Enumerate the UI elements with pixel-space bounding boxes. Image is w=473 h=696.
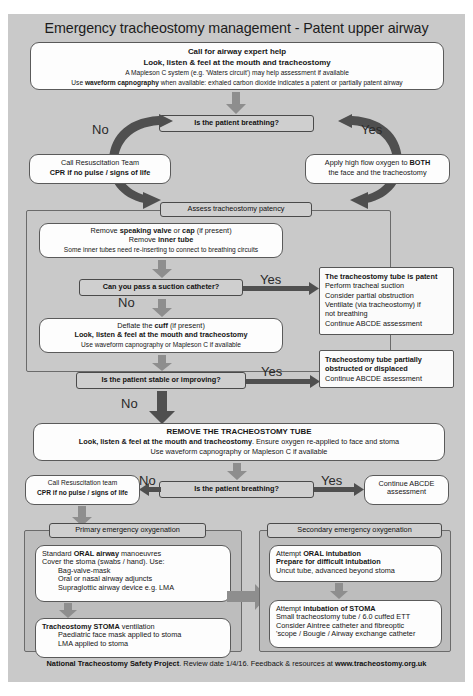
arrow-no-to-deflate — [152, 299, 172, 317]
resus1-line1: Call Resuscitation Team — [33, 159, 167, 167]
flowchart-canvas: Emergency tracheostomy management - Pate… — [8, 14, 465, 682]
footer-url[interactable]: www.tracheostomy.org.uk — [335, 659, 427, 668]
remove-valve-line3: Some inner tubes need re-inserting to co… — [44, 246, 278, 254]
decision-suction-catheter[interactable]: Can you pass a suction catheter? — [79, 279, 243, 296]
primary-header-label: Primary emergency oxygenation — [75, 526, 180, 534]
footer-regular: . Review date 1/4/16. Feedback & resourc… — [179, 659, 335, 668]
flowchart-page: Emergency tracheostomy management - Pate… — [0, 0, 473, 696]
secondary-header-label: Secondary emergency oxygenation — [297, 526, 411, 534]
remove-valve-line2: Remove inner tube — [44, 236, 278, 244]
secondary-oral-intubation-box: Attempt ORAL intubation Prepare for diff… — [269, 545, 442, 582]
arrow-no-to-remove-tube — [149, 391, 175, 424]
footer-bold1: National Tracheostomy Safety Project — [47, 659, 180, 668]
patent-line5: not breathing — [325, 309, 448, 318]
secondary-stoma-intubation-box: Attempt intubation of STOMA Small trache… — [269, 600, 442, 648]
apply-oxygen-box: Apply high flow oxygen to BOTH the face … — [305, 154, 450, 184]
arrow-down-secondary-inner — [330, 583, 348, 599]
primary-b2-line3: LMA applied to stoma — [42, 640, 224, 648]
arrow-down-to-decision4 — [227, 463, 247, 480]
branch-label-yes-2: Yes — [260, 272, 281, 287]
tube-partially-obstructed-box: Tracheostomy tube partially obstructed o… — [319, 350, 454, 388]
page-title: Emergency tracheostomy management - Pate… — [8, 20, 465, 36]
oxygen-line2: the face and the tracheostomy — [309, 169, 446, 177]
partial-line2: obstructed or displaced — [325, 364, 448, 373]
resus1-line2: CPR if no pulse / signs of life — [33, 169, 167, 177]
branch-label-yes-4: Yes — [321, 473, 342, 488]
assess-header-label: Assess tracheostomy patency — [188, 205, 285, 213]
arrow-yes-to-partial — [246, 375, 320, 389]
continue-line2: assessment — [368, 488, 445, 496]
decision4-label: Is the patient breathing? — [194, 485, 279, 493]
deflate-line1: Deflate the cuff (if present) — [44, 322, 278, 330]
decision-is-patient-breathing-2[interactable]: Is the patient breathing? — [159, 481, 314, 498]
patent-line6: Continue ABCDE assessment — [325, 319, 448, 328]
branch-label-no-3: No — [121, 396, 138, 411]
primary-stoma-ventilation-box: Tracheostomy STOMA ventilation Paediatri… — [35, 618, 231, 658]
arrow-down-to-decision3 — [152, 355, 172, 371]
patent-line3: Consider partial obstruction — [325, 291, 448, 300]
decision1-label: Is the patient breathing? — [194, 119, 279, 127]
continue-abcde-box: Continue ABCDE assessment — [364, 475, 449, 505]
remove-tracheostomy-tube-box: REMOVE THE TRACHEOSTOMY TUBE Look, liste… — [33, 423, 445, 461]
arrow-down-to-decision1 — [226, 92, 246, 114]
assess-patency-header: Assess tracheostomy patency — [160, 202, 312, 217]
call-for-help-box: Call for airway expert help Look, listen… — [30, 42, 444, 90]
call-resus-team-box-1: Call Resuscitation Team CPR if no pulse … — [29, 154, 171, 184]
secondary-oxygenation-header: Secondary emergency oxygenation — [267, 523, 442, 538]
partial-line3: Continue ABCDE assessment — [325, 374, 448, 383]
deflate-cuff-box: Deflate the cuff (if present) Look, list… — [39, 318, 283, 353]
remove-tube-line3: Use waveform capnography or Mapleson C i… — [38, 448, 440, 456]
branch-label-no-2: No — [118, 295, 135, 310]
patent-line4: Ventilate (via tracheostomy) if — [325, 300, 448, 309]
decision3-label: Is the patient stable or improving? — [101, 376, 220, 384]
branch-label-no-1: No — [92, 122, 109, 137]
call-help-line2: Look, listen & feel at the mouth and tra… — [35, 58, 439, 67]
branch-label-yes-1: Yes — [361, 122, 382, 137]
secondary-b2-line4: 'scope / Bougie / Airway exchange cathet… — [276, 630, 435, 638]
call-resus-team-box-2: Call Resuscitation team CPR if no pulse … — [25, 475, 140, 505]
primary-oxygenation-header: Primary emergency oxygenation — [49, 523, 206, 538]
call-help-line3: A Mapleson C system (e.g. 'Waters circui… — [35, 69, 439, 77]
remove-tube-line2: Look, listen & feel at the mouth and tra… — [38, 438, 440, 446]
footer-credits: National Tracheostomy Safety Project. Re… — [8, 659, 465, 668]
primary-b1-line5: Supraglottic airway device e.g. LMA — [42, 584, 224, 592]
tube-patent-box: The tracheostomy tube is patent Perform … — [319, 267, 454, 335]
primary-oral-airway-box: Standard ORAL airway manoeuvres Cover th… — [35, 545, 231, 602]
branch-label-no-4: No — [139, 473, 156, 488]
remove-tube-line1: REMOVE THE TRACHEOSTOMY TUBE — [38, 427, 440, 436]
call-help-line1: Call for airway expert help — [35, 47, 439, 56]
oxygen-line1: Apply high flow oxygen to BOTH — [309, 159, 446, 167]
patent-line2: Perform tracheal suction — [325, 281, 448, 290]
deflate-line3: Use waveform capnography or Mapleson C i… — [44, 341, 278, 349]
secondary-b1-line3: Uncut tube, advanced beyond stoma — [276, 567, 435, 575]
call-help-line4: Use waveform capnography when available:… — [35, 79, 439, 87]
decision-stable-or-improving[interactable]: Is the patient stable or improving? — [76, 372, 246, 389]
resus2-line1: Call Resuscitation team — [29, 479, 136, 487]
remove-valve-box: Remove speaking valve or cap (if present… — [39, 223, 283, 258]
deflate-line2: Look, listen & feel at the mouth and tra… — [44, 331, 278, 339]
remove-valve-line1: Remove speaking valve or cap (if present… — [44, 227, 278, 235]
branch-label-yes-3: Yes — [261, 364, 282, 379]
partial-line1: Tracheostomy tube partially — [325, 355, 448, 364]
decision2-label: Can you pass a suction catheter? — [103, 283, 219, 291]
arrow-down-to-decision2 — [152, 260, 172, 278]
arrow-down-primary-inner — [59, 603, 77, 618]
resus2-line2: CPR if no pulse / signs of life — [29, 489, 136, 497]
patent-line1: The tracheostomy tube is patent — [325, 272, 448, 281]
